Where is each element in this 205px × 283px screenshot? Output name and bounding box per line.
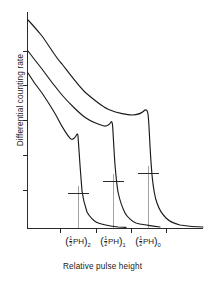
x-tick-label-group: (12PH)2 (12PH)1 (12PH)0: [0, 235, 205, 251]
ph-subscript: 2: [88, 242, 91, 248]
ph-symbol: PH: [108, 237, 119, 246]
fraction-denominator: 2: [104, 242, 108, 248]
one-half-fraction: 12: [69, 236, 73, 248]
curve-2-lowest-energy: [28, 73, 126, 227]
x-tick-label-ph2: (12PH)2: [65, 235, 91, 248]
y-axis-title: Differential counting rate: [17, 35, 25, 165]
x-tick-label-ph1: (12PH)1: [100, 235, 126, 248]
ph-symbol: PH: [143, 237, 154, 246]
figure-root: Differential counting rate (12PH)2 (12PH…: [0, 0, 205, 283]
one-half-fraction: 12: [139, 236, 143, 248]
fraction-denominator: 2: [139, 242, 143, 248]
ph-subscript: 0: [158, 242, 161, 248]
edge-guide-lines: [78, 166, 148, 228]
one-half-fraction: 12: [104, 236, 108, 248]
ph-symbol: PH: [73, 237, 84, 246]
axes-group: [27, 12, 203, 228]
fraction-denominator: 2: [69, 242, 73, 248]
curve-1-middle-energy: [28, 51, 160, 227]
x-axis-ticks: [60, 228, 166, 233]
x-tick-label-ph0: (12PH)0: [135, 235, 161, 248]
curve-0-highest-energy: [28, 20, 203, 227]
ph-subscript: 1: [123, 242, 126, 248]
x-axis-title: Relative pulse height: [0, 262, 205, 271]
